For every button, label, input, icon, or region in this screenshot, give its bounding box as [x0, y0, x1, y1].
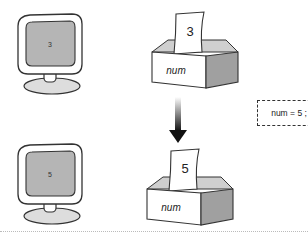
- statement-text: num = 5 ;: [271, 108, 307, 118]
- box-value-before: 3: [186, 24, 193, 39]
- box-value-after: 5: [181, 161, 188, 176]
- down-arrow: [168, 97, 188, 147]
- assignment-statement: num = 5 ;: [257, 100, 308, 126]
- box-label-before: num: [166, 65, 185, 76]
- monitor-value-after: 5: [48, 171, 52, 178]
- monitor-before: 3: [10, 10, 90, 95]
- variable-box-after: 5 num: [135, 145, 245, 233]
- variable-box-before: 3 num: [140, 8, 250, 96]
- monitor-after: 5: [10, 140, 90, 225]
- arrow-down-icon: [168, 97, 188, 147]
- divider: [0, 231, 308, 232]
- box-label-after: num: [161, 202, 180, 213]
- monitor-value-before: 3: [48, 41, 52, 48]
